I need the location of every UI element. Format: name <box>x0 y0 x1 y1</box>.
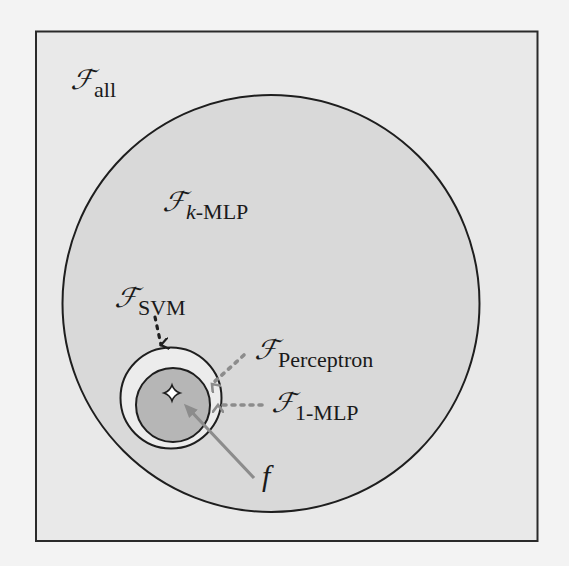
label-subscript: Perceptron <box>278 347 373 372</box>
label-f-1mlp: ℱ1-MLP <box>273 389 359 416</box>
script-f-symbol: ℱ <box>69 66 96 93</box>
label-subscript: k-MLP <box>186 199 248 224</box>
script-f-symbol: ℱ <box>270 389 297 416</box>
label-subscript-k: k <box>186 199 196 224</box>
script-f-symbol: ℱ <box>161 188 188 215</box>
label-f-kmlp: ℱk-MLP <box>164 188 248 215</box>
script-f-symbol: ℱ <box>113 284 140 311</box>
label-f-svm: ℱSVM <box>116 284 186 311</box>
label-target-f: f <box>262 461 270 491</box>
label-subscript: all <box>94 77 116 102</box>
script-f-symbol: ℱ <box>253 336 280 363</box>
label-subscript-rest: -MLP <box>196 199 249 224</box>
label-f-all: ℱall <box>72 66 116 93</box>
label-subscript: 1-MLP <box>295 400 359 425</box>
set-1mlp-circle <box>136 368 210 442</box>
label-f-perceptron: ℱPerceptron <box>256 336 373 363</box>
label-subscript: SVM <box>138 295 186 320</box>
